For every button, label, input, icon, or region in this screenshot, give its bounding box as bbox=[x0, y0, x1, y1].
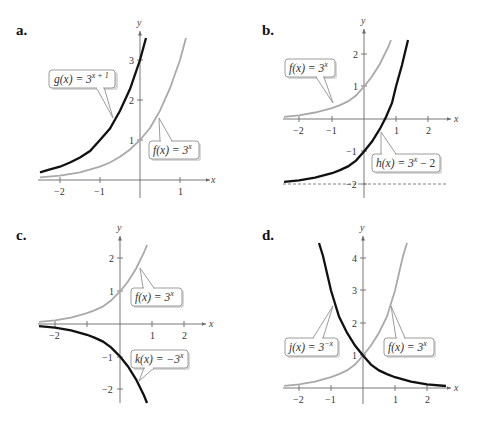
curve-f-c bbox=[39, 245, 147, 322]
svg-text:f(x) = 3x: f(x) = 3x bbox=[289, 60, 328, 75]
callout-f-d: f(x) = 3x bbox=[384, 306, 436, 358]
svg-text:f(x) = 3x: f(x) = 3x bbox=[388, 339, 427, 354]
x-tick: 2 bbox=[425, 394, 430, 405]
figure-canvas: a. x y −2 −1 1 1 2 3 g(x) = 3x + 1 bbox=[0, 0, 482, 428]
x-axis-label: x bbox=[208, 318, 214, 329]
x-tick: 1 bbox=[393, 394, 398, 405]
y-axis-label: y bbox=[136, 17, 142, 28]
x-tick: 2 bbox=[182, 330, 187, 341]
svg-text:f(x) = 3x: f(x) = 3x bbox=[135, 289, 174, 304]
svg-text:k(x) = −3x: k(x) = −3x bbox=[135, 351, 184, 366]
panel-label-a: a. bbox=[16, 22, 28, 38]
callout-k-c: k(x) = −3x bbox=[131, 350, 190, 381]
y-tick: 3 bbox=[352, 285, 357, 296]
x-tick: −1 bbox=[94, 186, 105, 197]
svg-text:h(x) = 3x − 2: h(x) = 3x − 2 bbox=[376, 155, 436, 170]
panel-b: b. x y −2 −1 1 2 2 1 −1 −2 f(x) = 3x bbox=[262, 15, 459, 198]
y-tick: 4 bbox=[352, 253, 357, 264]
x-tick: 1 bbox=[178, 186, 183, 197]
x-tick: −1 bbox=[326, 125, 337, 136]
y-tick: −1 bbox=[346, 146, 357, 157]
y-axis-label: y bbox=[360, 15, 366, 26]
panel-d: d. x y −2 −1 1 2 4 3 2 1 j(x) = 3−x f(x)… bbox=[262, 222, 459, 405]
x-tick: 1 bbox=[150, 330, 155, 341]
y-tick: 2 bbox=[353, 49, 358, 60]
x-tick: −2 bbox=[54, 186, 65, 197]
curve-f-d bbox=[284, 243, 407, 386]
y-tick: 1 bbox=[352, 350, 357, 361]
y-tick: 2 bbox=[352, 318, 357, 329]
panel-c: c. x y −2 1 2 2 1 −1 −2 f(x) = 3x k(x) =… bbox=[16, 222, 214, 403]
x-tick: −2 bbox=[293, 125, 304, 136]
x-axis-label: x bbox=[453, 382, 459, 393]
y-tick: 3 bbox=[129, 55, 134, 66]
y-tick: 2 bbox=[109, 253, 114, 264]
y-tick: −2 bbox=[102, 384, 113, 395]
svg-text:f(x) = 3x: f(x) = 3x bbox=[153, 142, 192, 157]
y-tick: 1 bbox=[129, 135, 134, 146]
y-tick: 1 bbox=[353, 81, 358, 92]
callout-h-b: h(x) = 3x − 2 bbox=[372, 132, 442, 174]
callout-f-c: f(x) = 3x bbox=[131, 268, 184, 308]
x-axis-label: x bbox=[453, 113, 459, 124]
y-tick: −2 bbox=[346, 179, 357, 190]
y-tick: 1 bbox=[109, 286, 114, 297]
x-tick: −2 bbox=[293, 394, 304, 405]
callout-f-a: f(x) = 3x bbox=[149, 118, 201, 161]
panel-label-d: d. bbox=[262, 227, 274, 243]
y-tick: 2 bbox=[129, 95, 134, 106]
y-tick: −1 bbox=[102, 352, 113, 363]
callout-g-a: g(x) = 3x + 1 bbox=[49, 70, 118, 118]
callout-f-b: f(x) = 3x bbox=[285, 59, 337, 103]
callout-j-d: j(x) = 3−x bbox=[285, 306, 340, 358]
y-axis-label: y bbox=[359, 222, 365, 233]
x-tick: 2 bbox=[426, 125, 431, 136]
x-tick: −2 bbox=[49, 330, 60, 341]
panel-label-c: c. bbox=[16, 227, 27, 243]
x-tick: 1 bbox=[394, 125, 399, 136]
panel-a: a. x y −2 −1 1 1 2 3 g(x) = 3x + 1 bbox=[16, 17, 216, 198]
x-axis-label: x bbox=[210, 174, 216, 185]
x-tick: −1 bbox=[325, 394, 336, 405]
panel-label-b: b. bbox=[262, 22, 274, 38]
y-axis-label: y bbox=[116, 222, 122, 233]
curve-j-d bbox=[319, 243, 446, 386]
